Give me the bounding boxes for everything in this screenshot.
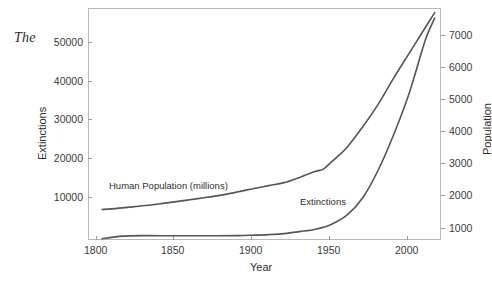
series-annotation-extinctions: Extinctions [300, 196, 346, 207]
y-left-ticklabel: 40000 [54, 76, 83, 87]
y-right-ticklabel: 6000 [449, 62, 472, 73]
y-left-ticklabel: 30000 [54, 114, 83, 125]
y-right-tickmark [441, 131, 445, 132]
y-right-tickmark [441, 163, 445, 164]
x-axis-ticklabel: 1900 [239, 245, 262, 256]
x-axis-ticklabel: 1850 [161, 245, 184, 256]
y-right-ticklabel: 1000 [449, 223, 472, 234]
series-annotation-human-population: Human Population (millions) [109, 180, 228, 191]
y-right-ticklabel: 2000 [449, 190, 472, 201]
y-right-tickmark [441, 99, 445, 100]
figure-screenshot: The 50000 40000 30000 20000 10000 Extinc… [0, 0, 492, 281]
y-right-tickmark [441, 35, 445, 36]
y-right-ticklabel: 4000 [449, 126, 472, 137]
y-right-ticklabel: 7000 [449, 30, 472, 41]
y-axis-left-title: Extinctions [36, 107, 48, 160]
y-right-ticklabel: 5000 [449, 94, 472, 105]
y-left-ticklabel: 20000 [54, 153, 83, 164]
series-line-extinctions [102, 18, 435, 239]
y-left-ticklabel: 10000 [54, 192, 83, 203]
chart-figure: 50000 40000 30000 20000 10000 Extinction… [0, 0, 492, 281]
y-left-ticklabel: 50000 [54, 37, 83, 48]
y-right-tickmark [441, 67, 445, 68]
data-curves [88, 8, 441, 240]
y-axis-right-title: Population [481, 103, 492, 155]
x-axis-title: Year [250, 261, 272, 273]
x-axis-ticklabel: 1800 [84, 245, 107, 256]
x-axis-ticklabel: 1950 [317, 245, 340, 256]
x-axis-ticklabel: 2000 [395, 245, 418, 256]
y-right-tickmark [441, 195, 445, 196]
y-right-tickmark [441, 228, 445, 229]
y-right-ticklabel: 3000 [449, 158, 472, 169]
